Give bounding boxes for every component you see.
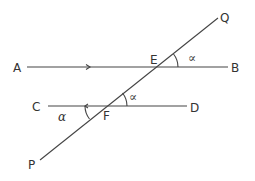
angle-arc-e	[174, 54, 179, 67]
angle-arc-f-upper	[123, 93, 128, 106]
transversal-pq	[40, 18, 218, 160]
label-q: Q	[220, 11, 229, 25]
label-c: C	[32, 100, 40, 114]
angle-label-f-lower: α	[58, 110, 66, 124]
label-a: A	[13, 61, 22, 75]
label-b: B	[231, 61, 239, 75]
geometry-diagram: A B C D E F P Q ∝ ∝ α	[0, 0, 255, 181]
angle-label-f-upper: ∝	[129, 90, 137, 104]
label-d: D	[190, 101, 199, 115]
label-e: E	[150, 53, 158, 67]
label-p: P	[28, 158, 35, 172]
angle-label-e: ∝	[188, 51, 196, 65]
label-f: F	[103, 109, 110, 123]
